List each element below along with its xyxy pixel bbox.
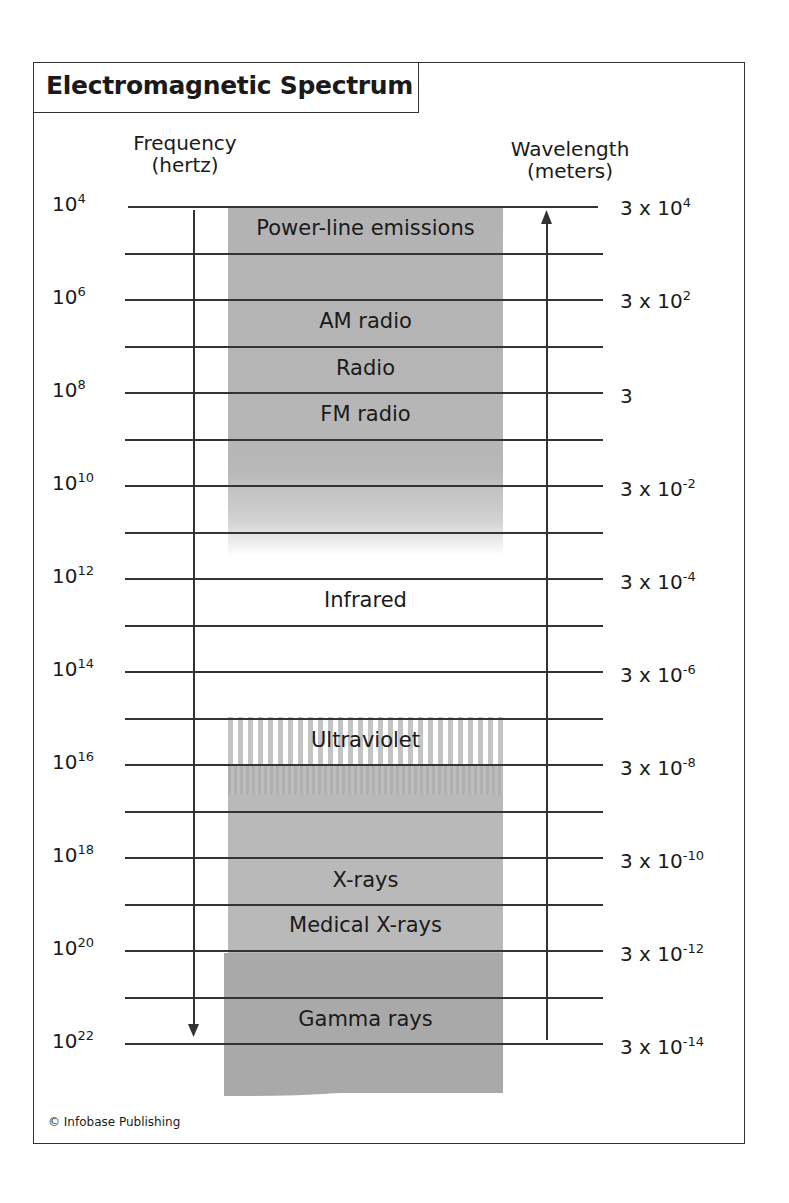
gridline <box>125 253 603 255</box>
wavelength-tick: 3 x 104 <box>620 196 691 220</box>
radio-band <box>228 206 503 556</box>
frequency-axis-unit: (hertz) <box>120 154 250 176</box>
wavelength-tick: 3 x 10-10 <box>620 849 704 873</box>
band-label-gamma-rays: Gamma rays <box>228 1007 503 1031</box>
band-label-medical-xrays: Medical X-rays <box>228 913 503 937</box>
frequency-axis-label: Frequency <box>120 132 250 154</box>
gridline <box>125 718 603 720</box>
gridline <box>125 299 603 301</box>
gridline <box>125 392 603 394</box>
wavelength-axis-unit: (meters) <box>490 160 650 182</box>
gridline <box>125 578 603 580</box>
frequency-tick: 1020 <box>52 936 94 960</box>
band-label-am-radio: AM radio <box>228 309 503 333</box>
frequency-axis-title: Frequency (hertz) <box>120 132 250 176</box>
wavelength-tick: 3 <box>620 384 633 408</box>
frequency-tick: 104 <box>52 192 86 216</box>
wavy-bottom-edge <box>220 1060 510 1100</box>
gridline <box>128 206 598 208</box>
gridline <box>125 997 603 999</box>
title-box: Electromagnetic Spectrum <box>33 62 419 113</box>
gridline <box>125 439 603 441</box>
frequency-tick: 1022 <box>52 1029 94 1053</box>
band-label-fm-radio: FM radio <box>228 402 503 426</box>
gridline <box>125 346 603 348</box>
frequency-tick: 1012 <box>52 564 94 588</box>
gridline <box>125 857 603 859</box>
diagram-title: Electromagnetic Spectrum <box>46 71 413 100</box>
gridline <box>125 811 603 813</box>
wavelength-tick: 3 x 10-8 <box>620 756 696 780</box>
ultraviolet-xray-transition <box>228 765 503 795</box>
wavelength-tick: 3 x 10-12 <box>620 942 704 966</box>
gridline <box>125 532 603 534</box>
wavelength-axis-title: Wavelength (meters) <box>490 138 650 182</box>
frequency-tick: 1010 <box>52 471 94 495</box>
band-label-xrays: X-rays <box>228 868 503 892</box>
frequency-tick: 1018 <box>52 843 94 867</box>
frequency-tick: 108 <box>52 378 86 402</box>
band-label-ultraviolet: Ultraviolet <box>228 728 503 752</box>
gridline <box>125 625 603 627</box>
copyright-credit: © Infobase Publishing <box>48 1115 180 1129</box>
wavelength-tick: 3 x 10-2 <box>620 477 696 501</box>
wavelength-axis-label: Wavelength <box>490 138 650 160</box>
band-label-infrared: Infrared <box>228 588 503 612</box>
frequency-tick: 1014 <box>52 657 94 681</box>
gridline <box>125 1043 603 1045</box>
wavelength-tick: 3 x 10-14 <box>620 1035 704 1059</box>
wavelength-arrow-line <box>546 222 548 1040</box>
frequency-arrow-line <box>193 210 195 1028</box>
frequency-tick: 106 <box>52 285 86 309</box>
gridline <box>125 950 603 952</box>
band-label-power-line: Power-line emissions <box>228 216 503 240</box>
arrow-up-icon <box>541 210 553 224</box>
wavelength-tick: 3 x 10-6 <box>620 663 696 687</box>
gridline <box>125 764 603 766</box>
gridline <box>125 904 603 906</box>
gridline <box>125 671 603 673</box>
band-label-radio: Radio <box>228 356 503 380</box>
gridline <box>125 485 603 487</box>
arrow-down-icon <box>188 1024 200 1038</box>
wavelength-tick: 3 x 10-4 <box>620 570 696 594</box>
frequency-tick: 1016 <box>52 750 94 774</box>
wavelength-tick: 3 x 102 <box>620 289 691 313</box>
